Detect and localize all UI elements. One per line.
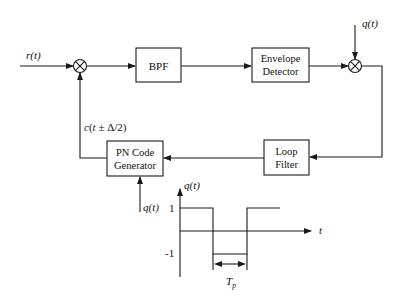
multiplier-2-icon	[349, 60, 362, 73]
multiplier-1-icon	[74, 60, 87, 73]
tp-arrow-left-icon	[214, 261, 222, 267]
envelope-label-line1: Envelope	[261, 53, 301, 64]
waveform-y-label: q(t)	[184, 179, 200, 192]
pn-label-line2: Generator	[114, 160, 156, 171]
pn-label-line1: PN Code	[116, 147, 155, 158]
dll-block-diagram: r(t) BPF Envelope Detector q(t) Loop Fil…	[0, 0, 400, 305]
waveform-low-level: -1	[165, 247, 174, 259]
envelope-label-line2: Detector	[262, 66, 299, 77]
loop-filter-label-line2: Filter	[275, 159, 298, 170]
feedback-signal-label: c(t ± Δ/2)	[84, 121, 127, 134]
pn-to-mixer-line	[80, 73, 107, 158]
waveform-high-level: 1	[169, 202, 175, 214]
period-label: Tp	[226, 275, 236, 290]
input-signal-label: r(t)	[26, 49, 41, 62]
dither-bottom-label: q(t)	[143, 201, 159, 214]
waveform-x-label: t	[319, 224, 323, 236]
bpf-label: BPF	[149, 60, 169, 72]
diagram-svg: r(t) BPF Envelope Detector q(t) Loop Fil…	[0, 0, 400, 305]
loop-filter-label-line1: Loop	[275, 146, 297, 157]
tp-arrow-right-icon	[238, 261, 246, 267]
mixer-to-loopfilter-line	[310, 66, 382, 157]
dither-top-label: q(t)	[362, 17, 378, 30]
